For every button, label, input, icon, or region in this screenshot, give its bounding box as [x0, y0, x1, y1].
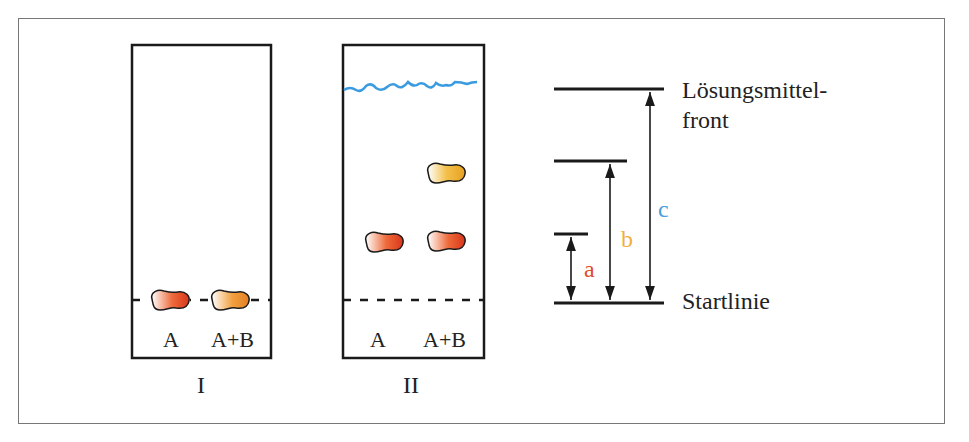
plate-II	[343, 45, 484, 358]
lane-label-AB-II: A+B	[423, 327, 466, 353]
spot-B-II	[428, 163, 465, 183]
distance-c-label: c	[658, 196, 669, 223]
rf-schematic	[554, 89, 664, 303]
lane-label-AB-I: A+B	[211, 327, 254, 353]
start-label: Startlinie	[682, 288, 770, 315]
plate-I	[132, 45, 271, 358]
chromatography-diagram	[0, 0, 969, 442]
plate-label-II: II	[403, 372, 419, 399]
spot-AB-I	[212, 290, 249, 310]
solvent-front	[344, 82, 477, 91]
lane-label-A-I: A	[163, 327, 179, 353]
distance-b-label: b	[621, 226, 633, 253]
front-label-line2: front	[682, 107, 729, 134]
spot-A-I	[152, 290, 189, 310]
plate-label-I: I	[197, 372, 205, 399]
front-label-line1: Lösungsmittel-	[682, 77, 827, 104]
spot-A-in-AB-II	[428, 231, 465, 251]
distance-a-label: a	[584, 256, 595, 283]
lane-label-A-II: A	[370, 327, 386, 353]
spot-A-II	[366, 232, 403, 252]
